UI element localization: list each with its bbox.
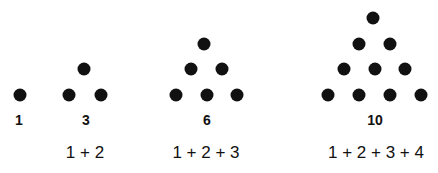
count-label: 3 xyxy=(82,112,90,128)
dot-icon xyxy=(384,89,397,102)
dot-icon xyxy=(399,63,412,76)
dot-icon xyxy=(216,63,229,76)
count-label: 6 xyxy=(203,112,211,128)
sum-expression: 1 + 2 + 3 xyxy=(172,143,239,163)
dot-icon xyxy=(369,63,382,76)
dot-icon xyxy=(14,89,27,102)
dot-icon xyxy=(353,38,366,51)
dot-icon xyxy=(170,89,183,102)
dot-icon xyxy=(185,63,198,76)
dot-icon xyxy=(367,12,380,25)
dot-icon xyxy=(78,63,91,76)
count-label: 10 xyxy=(367,112,383,128)
dot-icon xyxy=(384,38,397,51)
dot-icon xyxy=(231,89,244,102)
sum-expression: 1 + 2 + 3 + 4 xyxy=(328,143,424,163)
dot-icon xyxy=(198,38,211,51)
dot-icon xyxy=(322,89,335,102)
dot-icon xyxy=(63,89,76,102)
dot-icon xyxy=(353,89,366,102)
dot-icon xyxy=(338,63,351,76)
sum-expression: 1 + 2 xyxy=(66,143,104,163)
dot-icon xyxy=(95,89,108,102)
dot-icon xyxy=(201,89,214,102)
count-label: 1 xyxy=(15,112,23,128)
dot-icon xyxy=(415,89,428,102)
